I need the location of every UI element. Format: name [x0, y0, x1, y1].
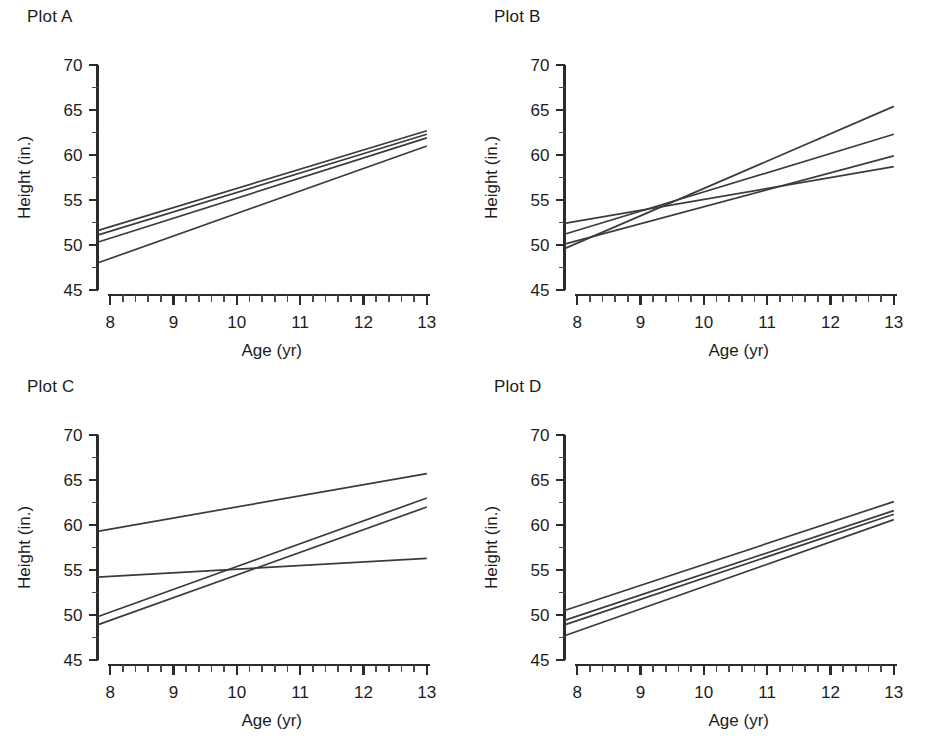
plot-svg-d: 4550556065708910111213Age (yr)Height (in…	[467, 370, 934, 741]
y-tick-label: 55	[531, 191, 550, 210]
series-line	[565, 514, 894, 625]
y-tick-label: 55	[64, 561, 83, 580]
x-axis-title: Age (yr)	[709, 341, 769, 360]
y-tick-label: 70	[531, 426, 550, 445]
x-tick-label: 8	[572, 683, 581, 702]
x-tick-label: 10	[227, 313, 246, 332]
series-line	[98, 131, 427, 231]
x-tick-label: 10	[694, 683, 713, 702]
y-tick-label: 60	[64, 146, 83, 165]
series-line	[565, 167, 894, 224]
series-line	[98, 498, 427, 617]
y-tick-label: 65	[64, 101, 83, 120]
x-tick-label: 11	[758, 313, 776, 332]
series-line	[98, 558, 427, 577]
x-tick-label: 11	[291, 313, 309, 332]
series-line	[565, 106, 894, 248]
x-tick-label: 9	[169, 683, 178, 702]
series-line	[98, 138, 427, 242]
plot-panel-c: Plot C 4550556065708910111213Age (yr)Hei…	[0, 370, 467, 741]
y-tick-label: 55	[64, 191, 83, 210]
series-line	[98, 134, 427, 235]
y-tick-label: 45	[64, 651, 83, 670]
y-axis-title: Height (in.)	[482, 506, 501, 589]
y-axis-title: Height (in.)	[482, 136, 501, 219]
y-axis-title: Height (in.)	[15, 136, 34, 219]
x-tick-label: 10	[227, 683, 246, 702]
x-tick-label: 13	[884, 683, 903, 702]
x-tick-label: 13	[884, 313, 903, 332]
y-tick-label: 45	[64, 281, 83, 300]
y-axis-title: Height (in.)	[15, 506, 34, 589]
series-line	[98, 146, 427, 263]
x-tick-label: 12	[354, 313, 373, 332]
x-tick-label: 12	[821, 683, 840, 702]
y-tick-label: 65	[531, 471, 550, 490]
y-tick-label: 60	[531, 146, 550, 165]
series-line	[565, 511, 894, 621]
y-tick-label: 70	[531, 56, 550, 75]
y-tick-label: 65	[531, 101, 550, 120]
plot-panel-a: Plot A 4550556065708910111213Age (yr)Hei…	[0, 0, 467, 370]
y-tick-label: 50	[64, 236, 83, 255]
x-tick-label: 13	[417, 313, 436, 332]
x-tick-label: 9	[636, 683, 645, 702]
x-axis-title: Age (yr)	[242, 341, 302, 360]
x-tick-label: 12	[354, 683, 373, 702]
x-axis-title: Age (yr)	[242, 711, 302, 730]
x-tick-label: 12	[821, 313, 840, 332]
x-tick-label: 10	[694, 313, 713, 332]
y-tick-label: 55	[531, 561, 550, 580]
x-tick-label: 8	[105, 313, 114, 332]
x-tick-label: 11	[758, 683, 776, 702]
x-tick-label: 8	[572, 313, 581, 332]
x-axis-title: Age (yr)	[709, 711, 769, 730]
x-tick-label: 9	[636, 313, 645, 332]
series-line	[98, 474, 427, 532]
series-line	[565, 520, 894, 636]
y-tick-label: 70	[64, 56, 83, 75]
y-tick-label: 60	[64, 516, 83, 535]
plot-svg-c: 4550556065708910111213Age (yr)Height (in…	[0, 370, 467, 741]
y-tick-label: 70	[64, 426, 83, 445]
plot-panel-b: Plot B 4550556065708910111213Age (yr)Hei…	[467, 0, 934, 370]
plot-svg-a: 4550556065708910111213Age (yr)Height (in…	[0, 0, 467, 370]
y-tick-label: 45	[531, 281, 550, 300]
series-line	[565, 134, 894, 234]
plot-panel-d: Plot D 4550556065708910111213Age (yr)Hei…	[467, 370, 934, 741]
y-tick-label: 60	[531, 516, 550, 535]
y-tick-label: 50	[64, 606, 83, 625]
y-tick-label: 50	[531, 236, 550, 255]
x-tick-label: 8	[105, 683, 114, 702]
y-tick-label: 45	[531, 651, 550, 670]
x-tick-label: 9	[169, 313, 178, 332]
series-line	[98, 507, 427, 625]
y-tick-label: 65	[64, 471, 83, 490]
y-tick-label: 50	[531, 606, 550, 625]
series-line	[565, 156, 894, 244]
plot-svg-b: 4550556065708910111213Age (yr)Height (in…	[467, 0, 934, 370]
x-tick-label: 13	[417, 683, 436, 702]
series-line	[565, 502, 894, 611]
x-tick-label: 11	[291, 683, 309, 702]
figure-grid: Plot A 4550556065708910111213Age (yr)Hei…	[0, 0, 934, 741]
